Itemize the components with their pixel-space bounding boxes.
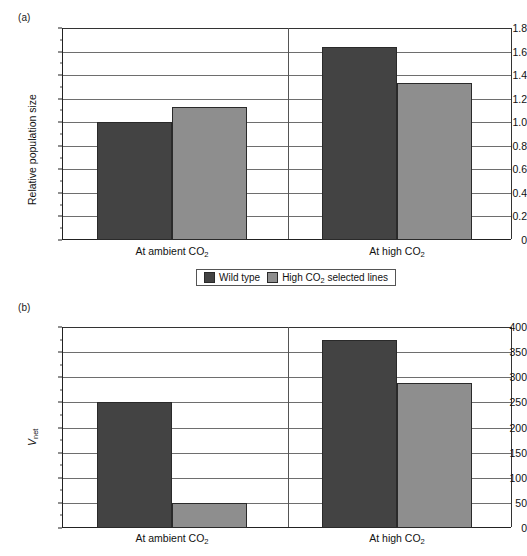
figure-container: (a) Relative population size 00.20.40.60… [0,0,527,556]
y-minor-tick [60,228,63,229]
y-minor-tick [60,181,63,182]
plot-right-border [511,28,512,239]
y-tick-mark [58,352,62,353]
y-tick-label: 350 [473,346,527,358]
chart-panel-a: (a) Relative population size 00.20.40.60… [0,0,527,266]
y-tick-mark [58,427,62,428]
y-tick-label: 300 [473,371,527,383]
bar-wild-type [322,340,397,528]
y-tick-mark [58,216,62,217]
y-minor-tick [60,86,63,87]
gridline [63,75,511,76]
bar-selected-lines [397,83,472,240]
legend-entry-wild-type: Wild type [204,272,260,283]
bar-selected-lines [397,383,472,528]
y-tick-mark [58,240,62,241]
panel-label-b: (b) [18,302,31,313]
chart-panel-b: (b) Vnet 050100150200250300350400 At amb… [0,296,527,556]
y-minor-tick [60,440,63,441]
y-tick-label: 200 [473,422,527,434]
x-axis-category-label: At ambient CO2 [135,532,208,544]
y-tick-label: 0.8 [473,140,527,152]
x-axis-category-label: At ambient CO2 [135,245,208,257]
y-tick-mark [58,169,62,170]
plot-top-border [63,28,511,29]
group-divider [288,327,289,527]
y-tick-label: 0.4 [473,187,527,199]
y-tick-label: 1.2 [473,93,527,105]
y-minor-tick [60,414,63,415]
legend-entry-selected-lines: High CO2 selected lines [267,272,388,283]
y-tick-label: 0 [473,234,527,246]
x-axis-category-label: At high CO2 [369,245,425,257]
legend-label-selected-lines: High CO2 selected lines [282,272,388,283]
y-tick-mark [58,477,62,478]
y-tick-mark [58,98,62,99]
y-minor-tick [60,110,63,111]
y-minor-tick [60,364,63,365]
legend-swatch-selected-lines [267,272,278,283]
y-tick-label: 150 [473,447,527,459]
y-minor-tick [60,63,63,64]
y-tick-label: 400 [473,321,527,333]
bar-wild-type [97,122,172,240]
y-tick-mark [58,528,62,529]
y-tick-label: 1.6 [473,46,527,58]
plot-top-border [63,327,511,328]
y-tick-label: 1.8 [473,22,527,34]
y-axis-title-a: Relative population size [26,94,38,205]
panel-label-a: (a) [18,12,31,23]
gridline [63,52,511,53]
y-minor-tick [60,157,63,158]
bar-selected-lines [172,107,247,240]
y-tick-mark [58,75,62,76]
bar-wild-type [97,402,172,528]
y-tick-label: 250 [473,396,527,408]
gridline [63,352,511,353]
y-tick-mark [58,452,62,453]
y-minor-tick [60,389,63,390]
y-tick-mark [58,122,62,123]
y-minor-tick [60,39,63,40]
y-minor-tick [60,204,63,205]
gridline [63,377,511,378]
y-tick-label: 100 [473,472,527,484]
y-tick-mark [58,28,62,29]
y-tick-label: 1.4 [473,69,527,81]
y-axis-title-b: Vnet [26,429,38,446]
bar-wild-type [322,47,397,240]
chart-legend: Wild type High CO2 selected lines [196,269,396,286]
group-divider [288,28,289,239]
y-tick-mark [58,402,62,403]
y-tick-label: 0 [473,522,527,534]
y-minor-tick [60,339,63,340]
y-minor-tick [60,465,63,466]
y-tick-label: 1.0 [473,116,527,128]
y-tick-label: 50 [473,497,527,509]
y-minor-tick [60,515,63,516]
legend-swatch-wild-type [204,272,215,283]
y-tick-mark [58,377,62,378]
y-tick-mark [58,327,62,328]
y-tick-mark [58,502,62,503]
y-tick-mark [58,51,62,52]
x-axis-category-label: At high CO2 [369,532,425,544]
legend-label-wild-type: Wild type [219,272,260,283]
y-minor-tick [60,134,63,135]
y-tick-label: 0.6 [473,163,527,175]
y-tick-mark [58,192,62,193]
y-tick-label: 0.2 [473,210,527,222]
bar-selected-lines [172,503,247,528]
y-minor-tick [60,490,63,491]
y-tick-mark [58,145,62,146]
